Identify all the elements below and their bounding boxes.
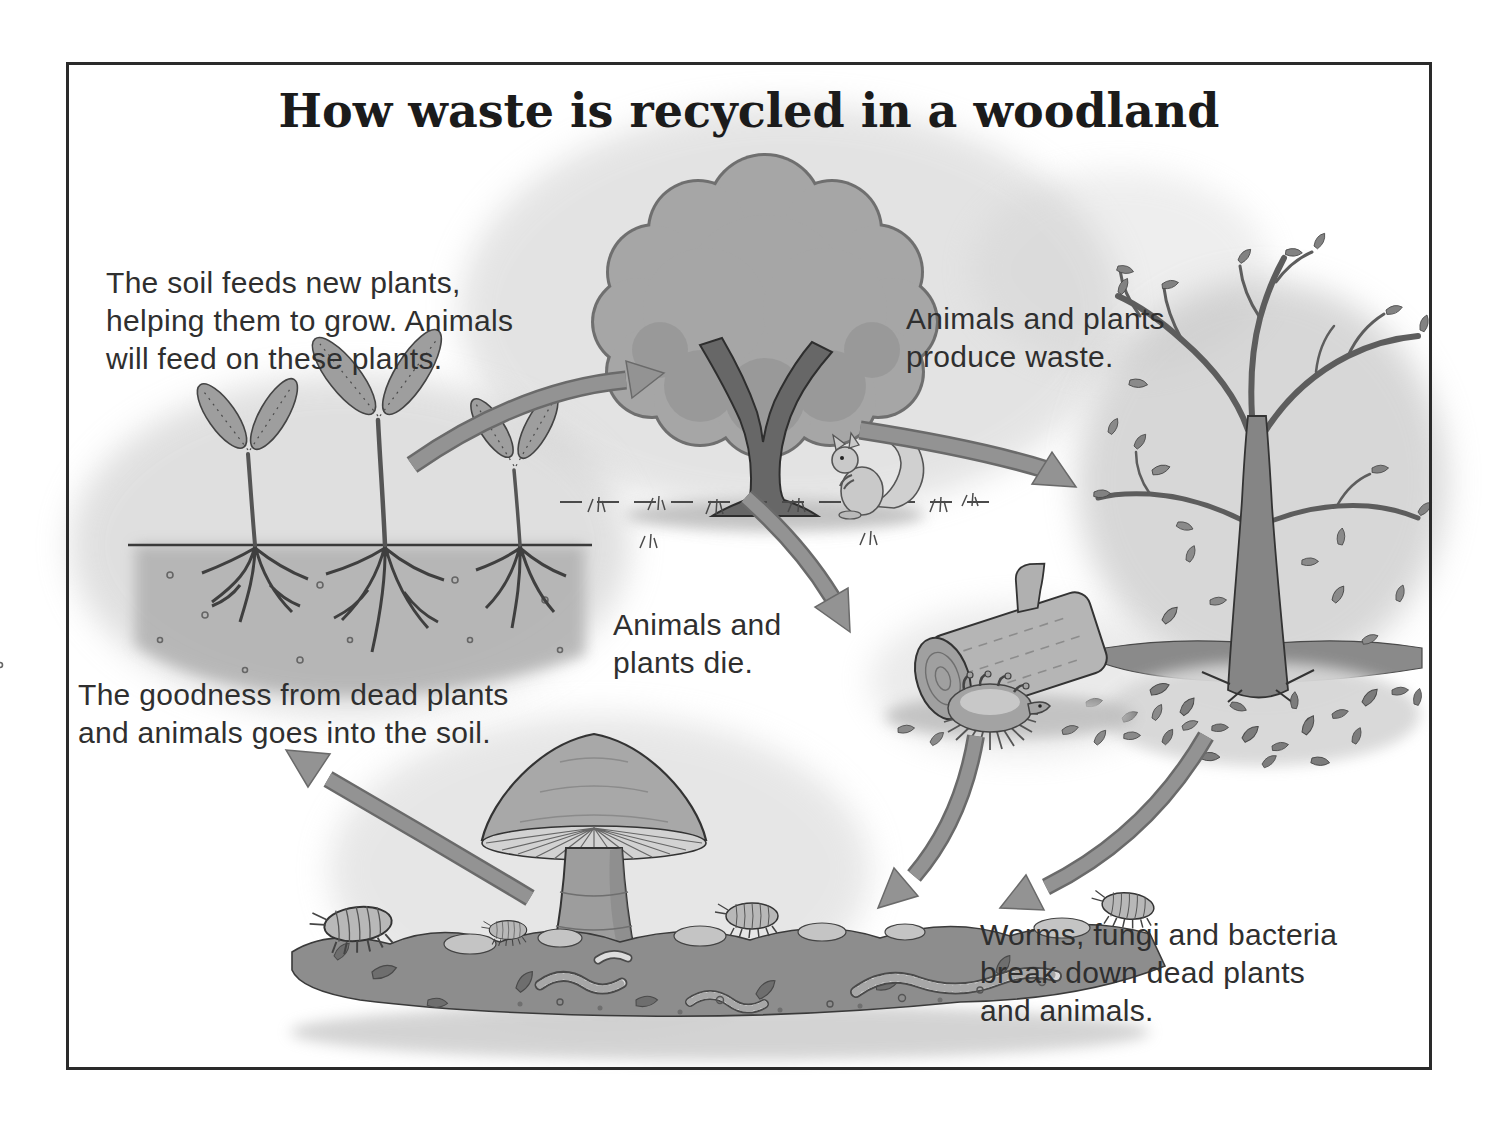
caption-line: Worms, fungi and bacteria (980, 916, 1337, 954)
caption-line: plants die. (613, 644, 781, 682)
caption-line: and animals. (980, 992, 1337, 1030)
woodland-diagram: How waste is recycled in a woodland The … (0, 0, 1494, 1123)
caption-line: produce waste. (906, 338, 1165, 376)
caption-line: break down dead plants (980, 954, 1337, 992)
caption-line: helping them to grow. Animals (106, 302, 513, 340)
caption-line: and animals goes into the soil. (78, 714, 509, 752)
caption-line: Animals and (613, 606, 781, 644)
caption-line: will feed on these plants. (106, 340, 513, 378)
caption-soil-feeds-plants: The soil feeds new plants, helping them … (106, 264, 513, 378)
diagram-title: How waste is recycled in a woodland (66, 84, 1432, 138)
caption-plants-die: Animals and plants die. (613, 606, 781, 682)
caption-decomposers: Worms, fungi and bacteria break down dea… (980, 916, 1337, 1030)
caption-produce-waste: Animals and plants produce waste. (906, 300, 1165, 376)
caption-line: Animals and plants (906, 300, 1165, 338)
caption-goodness-into-soil: The goodness from dead plants and animal… (78, 676, 509, 752)
caption-line: The goodness from dead plants (78, 676, 509, 714)
caption-line: The soil feeds new plants, (106, 264, 513, 302)
